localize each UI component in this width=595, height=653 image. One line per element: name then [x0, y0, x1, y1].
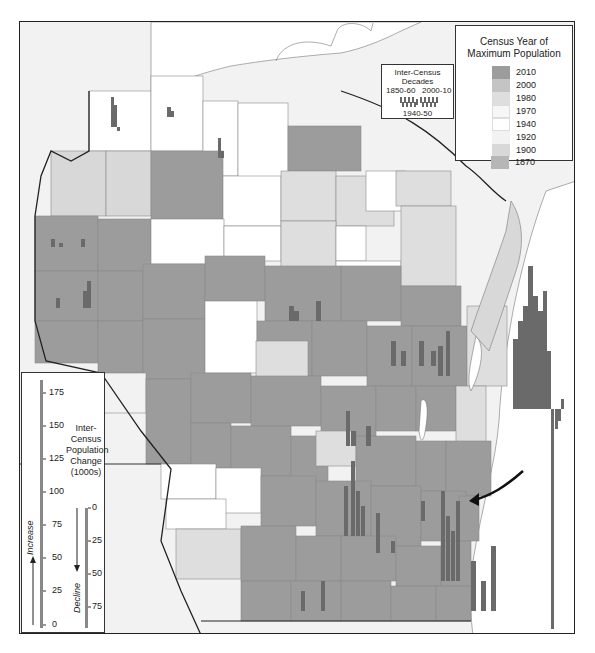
decline-arrow-icon [74, 565, 80, 572]
legend-item: 1970 [492, 105, 572, 118]
legend-item: 2010 [492, 66, 572, 79]
legend-item: 1920 [492, 131, 572, 144]
decline-label: Decline [72, 583, 82, 613]
legend-item: 2000 [492, 79, 572, 92]
legend-item: 1980 [492, 92, 572, 105]
scale-title: Inter- Census Population Change (1000s) [66, 423, 106, 478]
legend-decades-mid: 1940-50 [382, 109, 453, 118]
legend-item: 1940 [492, 118, 572, 131]
legend-decades: Inter-Census Decades 1850-60 2000-10 194… [381, 64, 454, 119]
legend-population-change: 175 150 125 100 75 50 25 0 0 25 50 75 In… [21, 372, 105, 633]
increase-label: Increase [25, 520, 35, 555]
legend-item: 1870 [491, 156, 571, 169]
increase-arrow-icon [30, 556, 36, 563]
legend-year-title: Census Year of Maximum Population [456, 36, 572, 60]
legend-census-year: Census Year of Maximum Population 2010 2… [455, 25, 573, 161]
